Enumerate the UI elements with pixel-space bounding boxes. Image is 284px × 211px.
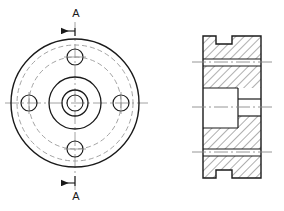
drawing-sheet: A A [0, 0, 284, 211]
section-label-bottom: A [72, 190, 80, 202]
section-hatch-lower-web [203, 116, 261, 149]
section-view-a-a [192, 36, 272, 178]
section-label-top: A [72, 7, 80, 19]
technical-drawing-canvas: A A [0, 0, 284, 211]
sheet-background [0, 0, 284, 211]
